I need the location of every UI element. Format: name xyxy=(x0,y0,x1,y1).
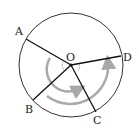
radius-OD xyxy=(71,56,121,65)
radius-OC xyxy=(71,65,96,112)
label-C: C xyxy=(93,114,101,127)
circle-diagram: O A B C D xyxy=(0,0,139,129)
label-A: A xyxy=(14,25,24,38)
label-B: B xyxy=(25,103,33,116)
outer-arc-arrow xyxy=(47,62,108,104)
angle-mark-left xyxy=(62,62,64,70)
label-O: O xyxy=(66,51,75,64)
label-D: D xyxy=(123,51,132,64)
radius-OB xyxy=(33,65,71,100)
